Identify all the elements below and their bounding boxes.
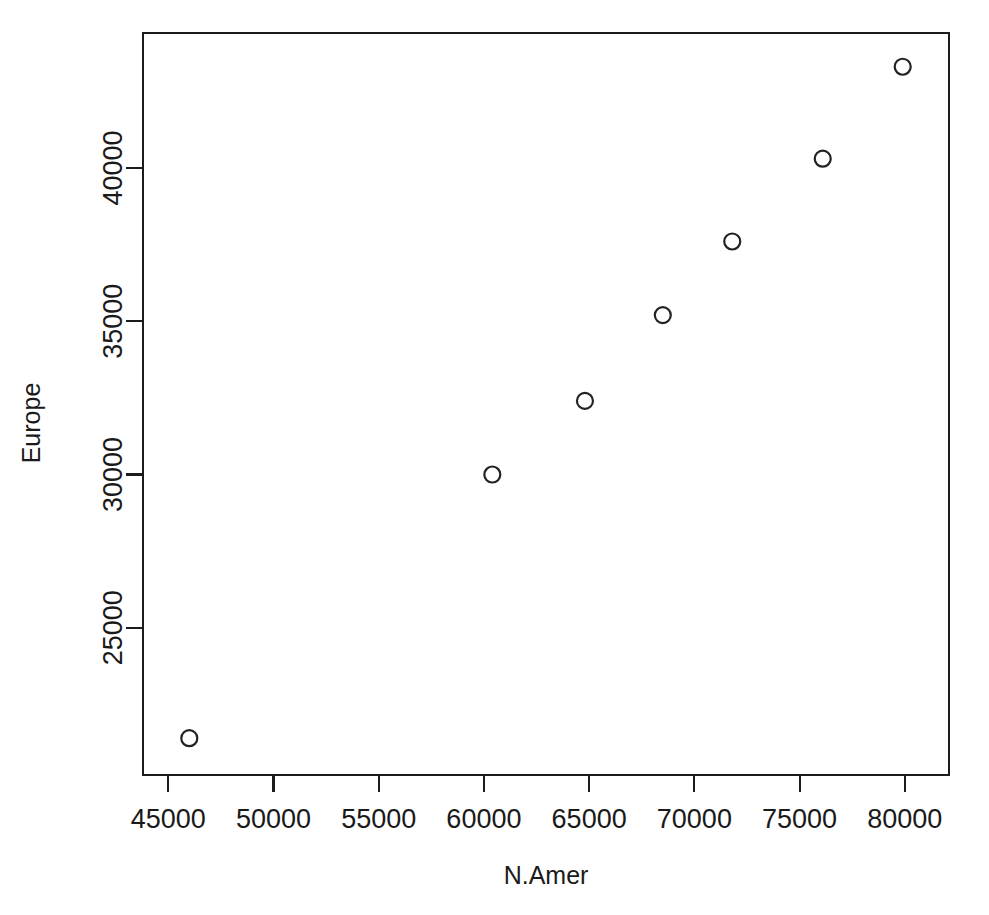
x-tick-label: 65000	[552, 804, 627, 834]
plot-canvas: 4500050000550006000065000700007500080000…	[0, 0, 989, 915]
x-tick-label: 75000	[762, 804, 837, 834]
x-tick-label: 70000	[657, 804, 732, 834]
x-tick-label: 50000	[236, 804, 311, 834]
x-tick-label: 55000	[341, 804, 416, 834]
scatter-plot-figure: 4500050000550006000065000700007500080000…	[0, 0, 989, 915]
x-tick-label: 80000	[867, 804, 942, 834]
y-tick-label: 40000	[98, 130, 128, 205]
y-axis-title: Europe	[17, 383, 45, 464]
y-tick-label: 30000	[98, 437, 128, 512]
figure-background	[0, 0, 989, 915]
x-tick-label: 45000	[131, 804, 206, 834]
x-tick-label: 60000	[446, 804, 521, 834]
y-tick-label: 35000	[98, 284, 128, 359]
y-tick-label: 25000	[98, 590, 128, 665]
x-axis-title: N.Amer	[504, 861, 589, 889]
